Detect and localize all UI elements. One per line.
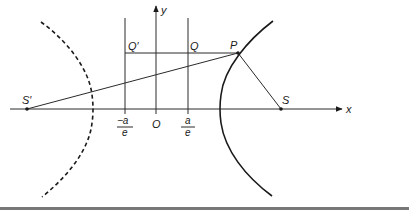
label-a-denominator: e bbox=[185, 127, 191, 138]
line-p-s bbox=[238, 53, 281, 109]
label-y-axis: y bbox=[160, 4, 168, 16]
point-s-prime bbox=[25, 107, 29, 111]
label-origin: O bbox=[152, 118, 161, 130]
label-q: Q bbox=[190, 40, 199, 52]
label-x-axis: x bbox=[345, 103, 352, 115]
bottom-rule bbox=[0, 207, 409, 210]
label-q-prime: Q′ bbox=[128, 40, 140, 52]
label-s: S bbox=[282, 94, 290, 106]
label-neg-a-denominator: e bbox=[122, 127, 128, 138]
label-a-numerator: a bbox=[185, 115, 191, 126]
label-s-prime: S′ bbox=[22, 94, 32, 106]
point-p bbox=[236, 51, 240, 55]
label-neg-a-numerator: −a bbox=[117, 115, 129, 126]
hyperbola-diagram: y x Q′ Q P S S′ O −a e a e bbox=[0, 0, 409, 211]
label-p: P bbox=[230, 39, 238, 51]
line-sprime-p bbox=[27, 53, 238, 109]
point-s bbox=[279, 107, 283, 111]
